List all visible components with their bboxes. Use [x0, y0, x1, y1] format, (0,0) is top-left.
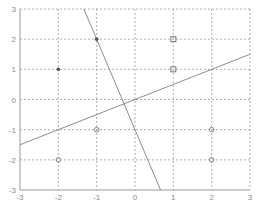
data-point-dot: [57, 68, 61, 72]
x-tick-label: 0: [133, 193, 138, 202]
y-tick-label: -1: [9, 126, 17, 135]
y-tick-label: 0: [12, 96, 17, 105]
y-tick-label: -2: [9, 156, 17, 165]
shallow-boundary-line: [20, 54, 250, 145]
x-tick-label: -2: [55, 193, 63, 202]
x-tick-label: -3: [16, 193, 24, 202]
x-tick-label: 3: [248, 193, 253, 202]
scatter-chart: -3-2-10123 -3-2-10123: [0, 0, 260, 206]
x-tick-label: 2: [209, 193, 214, 202]
y-tick-label: 3: [12, 5, 17, 14]
y-tick-label: 2: [12, 35, 17, 44]
y-tick-labels: -3-2-10123: [9, 5, 17, 195]
data-point-dot: [95, 37, 99, 41]
x-tick-label: -1: [93, 193, 101, 202]
y-tick-label: 1: [12, 65, 17, 74]
x-tick-labels: -3-2-10123: [16, 193, 252, 202]
x-tick-label: 1: [171, 193, 176, 202]
y-tick-label: -3: [9, 186, 17, 195]
